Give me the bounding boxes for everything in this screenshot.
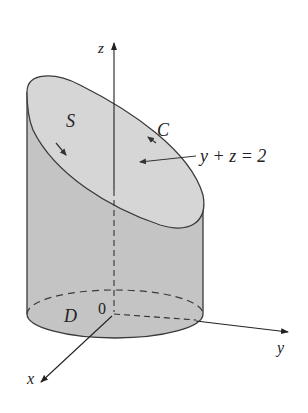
curve-label-c: C	[157, 120, 170, 140]
diagram-canvas: z S C y + z = 2 D 0 y x	[0, 0, 308, 413]
surface-label-s: S	[66, 111, 75, 131]
plane-equation-label: y + z = 2	[198, 146, 266, 166]
y-axis-label: y	[275, 339, 285, 357]
origin-label: 0	[98, 300, 106, 317]
region-label-d: D	[63, 306, 77, 326]
x-axis-label: x	[26, 370, 34, 387]
z-axis-label: z	[97, 40, 104, 56]
